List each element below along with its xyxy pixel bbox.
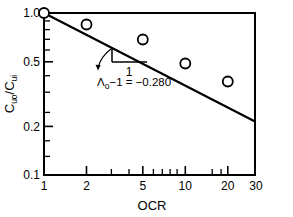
y-title-sub-uo: uo bbox=[9, 94, 19, 104]
y-title-c1: C bbox=[2, 104, 17, 113]
equation-remainder: −1 = −0.280 bbox=[109, 76, 171, 88]
plot-frame bbox=[44, 13, 255, 175]
data-point-marker bbox=[82, 20, 92, 30]
y-title-sub-ui: ui bbox=[9, 75, 19, 82]
x-tick-label: 1 bbox=[41, 179, 48, 193]
y-tick-label: 0.2 bbox=[23, 120, 40, 134]
x-tick-label: 20 bbox=[221, 179, 235, 193]
data-point-marker bbox=[180, 59, 190, 69]
y-axis-title: Cuo/Cui bbox=[2, 75, 19, 114]
data-point-marker bbox=[39, 8, 49, 18]
x-tick-label: 30 bbox=[249, 179, 263, 193]
x-tick-label: 10 bbox=[179, 179, 193, 193]
x-tick-label: 5 bbox=[139, 179, 146, 193]
y-tick-label: 0.5 bbox=[23, 55, 40, 69]
x-tick-label: 2 bbox=[83, 179, 90, 193]
y-tick-label: 0.1 bbox=[23, 168, 40, 182]
chart-figure: 1 2 5 10 20 30 1.0 0.5 0.2 0.1 1 Λo−1 = … bbox=[0, 0, 293, 217]
y-tick-label: 1.0 bbox=[23, 6, 40, 20]
data-point-marker bbox=[138, 35, 148, 45]
log-log-scatter-plot: 1 2 5 10 20 30 1.0 0.5 0.2 0.1 1 Λo−1 = … bbox=[0, 0, 293, 217]
x-axis-title: OCR bbox=[138, 198, 167, 213]
data-point-marker bbox=[223, 77, 233, 87]
y-title-slash-c2: /C bbox=[2, 81, 17, 94]
